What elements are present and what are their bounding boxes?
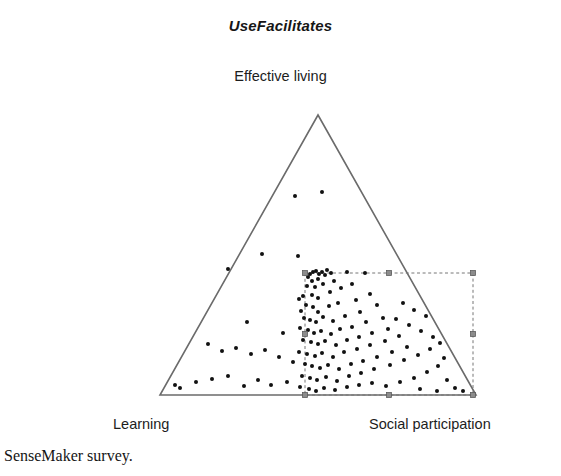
scatter-point bbox=[402, 358, 406, 362]
scatter-point bbox=[245, 320, 249, 324]
scatter-point bbox=[345, 270, 349, 274]
scatter-point bbox=[291, 360, 295, 364]
scatter-point bbox=[386, 327, 390, 331]
scatter-point bbox=[220, 349, 224, 353]
scatter-point bbox=[297, 297, 301, 301]
scatter-point bbox=[206, 342, 210, 346]
scatter-point bbox=[425, 370, 429, 374]
scatter-point bbox=[320, 190, 324, 194]
scatter-point bbox=[384, 384, 388, 388]
scatter-point bbox=[461, 389, 465, 393]
scatter-point bbox=[302, 316, 306, 320]
scatter-point bbox=[324, 375, 328, 379]
scatter-point bbox=[277, 355, 281, 359]
scatter-point bbox=[226, 267, 230, 271]
scatter-point bbox=[338, 327, 342, 331]
scatter-point bbox=[310, 279, 314, 283]
scatter-point bbox=[194, 380, 198, 384]
scatter-point bbox=[301, 338, 305, 342]
scatter-point bbox=[308, 318, 312, 322]
scatter-point bbox=[372, 367, 376, 371]
scatter-point bbox=[314, 389, 318, 393]
scatter-point bbox=[368, 343, 372, 347]
triangle-path bbox=[160, 115, 476, 395]
scatter-point bbox=[428, 347, 432, 351]
scatter-point bbox=[316, 310, 320, 314]
scatter-point bbox=[305, 352, 309, 356]
scatter-point bbox=[314, 269, 318, 273]
scatter-point bbox=[345, 338, 349, 342]
scatter-point bbox=[397, 334, 401, 338]
figure-caption: SenseMaker survey. bbox=[4, 447, 133, 465]
scatter-point bbox=[355, 347, 359, 351]
scatter-point bbox=[361, 359, 365, 363]
scatter-point bbox=[323, 273, 327, 277]
scatter-point bbox=[407, 323, 411, 327]
scatter-point bbox=[412, 308, 416, 312]
scatter-point bbox=[329, 332, 333, 336]
scatter-point bbox=[370, 331, 374, 335]
scatter-point bbox=[316, 342, 320, 346]
scatter-point bbox=[442, 356, 446, 360]
scatter-point bbox=[307, 387, 311, 391]
selection-handles[interactable] bbox=[302, 270, 475, 397]
scatter-point bbox=[328, 290, 332, 294]
resize-handle[interactable] bbox=[302, 331, 307, 336]
scatter-point bbox=[383, 339, 387, 343]
scatter-point bbox=[260, 252, 264, 256]
scatter-point bbox=[375, 303, 379, 307]
scatter-point bbox=[335, 379, 339, 383]
scatter-point bbox=[339, 286, 343, 290]
scatter-point bbox=[210, 377, 214, 381]
scatter-point bbox=[364, 320, 368, 324]
scatter-point bbox=[256, 378, 260, 382]
scatter-point bbox=[305, 284, 309, 288]
scatter-point bbox=[323, 339, 327, 343]
scatter-point bbox=[357, 335, 361, 339]
scatter-point bbox=[313, 285, 317, 289]
scatter-point bbox=[375, 355, 379, 359]
scatter-point bbox=[303, 362, 307, 366]
scatter-point bbox=[318, 366, 322, 370]
scatter-point bbox=[313, 354, 317, 358]
resize-handle[interactable] bbox=[386, 392, 391, 397]
scatter-point bbox=[263, 348, 267, 352]
scatter-point bbox=[314, 320, 318, 324]
scatter-point bbox=[334, 343, 338, 347]
resize-handle[interactable] bbox=[470, 392, 475, 397]
scatter-point bbox=[298, 385, 302, 389]
resize-handle[interactable] bbox=[470, 270, 475, 275]
scatter-point bbox=[321, 282, 325, 286]
scatter-point bbox=[320, 270, 324, 274]
resize-handle[interactable] bbox=[386, 270, 391, 275]
scatter-point bbox=[347, 374, 351, 378]
scatter-point bbox=[316, 296, 320, 300]
scatter-point bbox=[296, 254, 300, 258]
scatter-point bbox=[326, 363, 330, 367]
scatter-point bbox=[301, 294, 305, 298]
scatter-point bbox=[436, 364, 440, 368]
scatter-point bbox=[336, 301, 340, 305]
scatter-point bbox=[350, 282, 354, 286]
scatter-point bbox=[370, 381, 374, 385]
resize-handle[interactable] bbox=[302, 392, 307, 397]
scatter-point bbox=[345, 385, 349, 389]
scatter-point bbox=[435, 389, 439, 393]
scatter-point bbox=[358, 310, 362, 314]
scatter-point bbox=[321, 315, 325, 319]
scatter-point bbox=[319, 329, 323, 333]
scatter-point bbox=[363, 271, 367, 275]
scatter-point bbox=[405, 345, 409, 349]
scatter-point bbox=[226, 374, 230, 378]
scatter-point bbox=[431, 335, 435, 339]
scatter-point bbox=[310, 293, 314, 297]
scatter-point bbox=[242, 384, 246, 388]
resize-handle[interactable] bbox=[302, 270, 307, 275]
ternary-plot[interactable] bbox=[0, 0, 561, 476]
resize-handle[interactable] bbox=[470, 331, 475, 336]
scatter-point bbox=[304, 303, 308, 307]
scatter-point bbox=[297, 350, 301, 354]
scatter-point bbox=[322, 386, 326, 390]
scatter-point bbox=[424, 314, 428, 318]
scatter-point bbox=[354, 298, 358, 302]
